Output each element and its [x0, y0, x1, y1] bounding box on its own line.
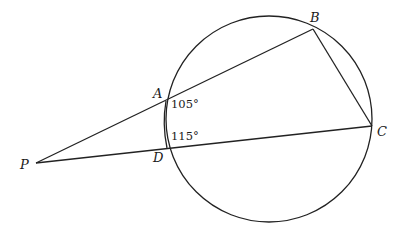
secant-pc: [36, 126, 372, 163]
label-a: A: [152, 86, 162, 101]
label-p: P: [19, 157, 29, 172]
label-d: D: [152, 150, 164, 165]
label-b: B: [309, 10, 320, 25]
angle-d: 115°: [171, 129, 199, 143]
label-c: C: [377, 124, 387, 139]
circle: [166, 16, 372, 222]
angle-a: 105°: [171, 97, 199, 111]
geometry-diagram: P A B C D 105° 115°: [0, 0, 406, 236]
